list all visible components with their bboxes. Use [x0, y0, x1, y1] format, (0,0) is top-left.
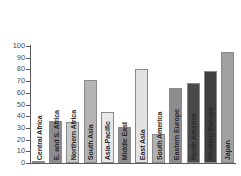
y-axis-tick [26, 58, 30, 59]
y-axis-tick [26, 46, 30, 47]
bar-label: Northern Africa [70, 110, 77, 160]
y-axis-tick-label: 0 [1, 159, 25, 167]
plot-area: Central AfricaE. and S. AfricaNorthern A… [30, 46, 236, 163]
y-axis-tick-label: 80 [1, 65, 25, 73]
y-axis-tick-label: 70 [1, 77, 25, 85]
bar-group[interactable]: Middle East [118, 46, 131, 163]
bar-group[interactable]: Asia-Pacific [101, 46, 114, 163]
bar-label: Western Europe [207, 107, 214, 160]
y-axis-tick [26, 140, 30, 141]
bar-label: Japan [224, 140, 231, 160]
bar-label: North America [190, 113, 197, 160]
bar-group[interactable]: Japan [221, 46, 234, 163]
y-axis-tick [26, 93, 30, 94]
y-axis-tick [26, 105, 30, 106]
y-axis-tick-label: 10 [1, 147, 25, 155]
bar-group[interactable]: E. and S. Africa [49, 46, 62, 163]
y-axis-tick-label: 30 [1, 124, 25, 132]
bar-label: Middle East [121, 122, 128, 160]
bar-chart: 0102030405060708090100 Central AfricaE. … [0, 0, 241, 176]
bar-label: Central Africa [35, 115, 42, 160]
y-axis-tick-label: 100 [1, 42, 25, 50]
bar-group[interactable]: East Asia [135, 46, 148, 163]
x-axis-line [30, 163, 236, 164]
y-axis-tick-label: 60 [1, 89, 25, 97]
bar[interactable] [32, 161, 45, 163]
y-axis-tick-label: 20 [1, 136, 25, 144]
y-axis-tick [26, 163, 30, 164]
bar-group[interactable]: Central Africa [32, 46, 45, 163]
bar-group[interactable]: Eastern Europe [169, 46, 182, 163]
bar-label: South America [156, 111, 163, 160]
y-axis-tick-label: 40 [1, 112, 25, 120]
y-axis-tick [26, 128, 30, 129]
bar-group[interactable]: South Asia [84, 46, 97, 163]
bar-group[interactable]: Northern Africa [66, 46, 79, 163]
y-axis-tick [26, 81, 30, 82]
bar-group[interactable]: South America [152, 46, 165, 163]
y-axis-tick [26, 69, 30, 70]
y-axis-tick-label: 50 [1, 101, 25, 109]
bar-group[interactable]: Western Europe [204, 46, 217, 163]
y-axis-tick-label: 90 [1, 54, 25, 62]
y-axis-labels: 0102030405060708090100 [0, 0, 25, 176]
y-axis-tick [26, 116, 30, 117]
bar-group[interactable]: North America [187, 46, 200, 163]
bar-label: Eastern Europe [173, 109, 180, 160]
bar-label: South Asia [87, 124, 94, 160]
y-axis-tick [26, 151, 30, 152]
bar-label: East Asia [138, 129, 145, 160]
bar-label: Asia-Pacific [104, 121, 111, 160]
bar-label: E. and S. Africa [53, 110, 60, 160]
